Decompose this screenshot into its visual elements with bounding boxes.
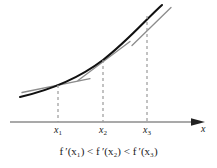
tick-label-x1: x1 bbox=[54, 125, 62, 135]
function-curve bbox=[20, 5, 162, 97]
derivative-figure: x1 x2 x3 x f ′(x₁) < f ′(x₂) < f ′(x₃) bbox=[0, 0, 217, 168]
x-axis-label: x bbox=[201, 124, 205, 134]
tick-label-x3: x3 bbox=[143, 125, 151, 135]
tick-label-x3-sub: 3 bbox=[147, 129, 151, 137]
tangent-line-x3 bbox=[132, 8, 171, 46]
figure-caption: f ′(x₁) < f ′(x₂) < f ′(x₃) bbox=[0, 146, 217, 157]
tick-label-x1-sub: 1 bbox=[58, 129, 62, 137]
tangent-line-x2 bbox=[78, 42, 130, 81]
tick-label-x2-sub: 2 bbox=[103, 129, 107, 137]
tick-label-x2: x2 bbox=[99, 125, 107, 135]
figure-canvas bbox=[0, 0, 217, 168]
